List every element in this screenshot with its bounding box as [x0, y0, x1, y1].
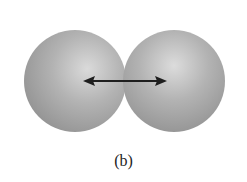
figure-label: (b): [0, 152, 247, 170]
